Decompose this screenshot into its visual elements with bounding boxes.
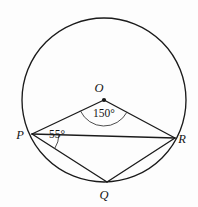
center-point-dot	[102, 98, 106, 102]
chord-qr	[107, 138, 175, 182]
point-label-o: O	[94, 81, 103, 95]
geometry-diagram: O P Q R 150° 55°	[0, 0, 198, 207]
point-label-r: R	[177, 132, 186, 146]
point-label-q: Q	[99, 188, 108, 202]
radius-or	[104, 100, 175, 138]
inscribed-angle-label: 55°	[49, 128, 66, 140]
central-angle-label: 150°	[93, 107, 115, 119]
geometry-canvas: O P Q R 150° 55°	[0, 0, 198, 207]
point-label-p: P	[15, 128, 24, 142]
